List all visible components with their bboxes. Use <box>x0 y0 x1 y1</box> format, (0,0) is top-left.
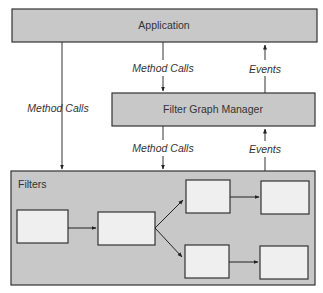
filter-box-4 <box>261 181 309 214</box>
filter-box-2 <box>98 212 155 245</box>
filter-graph-diagram: Application Method Calls Method Calls Ev… <box>0 0 323 293</box>
filter-graph-manager-node: Filter Graph Manager <box>112 93 315 126</box>
filter-box-1 <box>17 210 68 243</box>
edge-label-filters-to-fgm: Events <box>249 143 282 155</box>
edge-label-fgm-to-filters: Method Calls <box>132 142 194 154</box>
filter-box-5 <box>185 245 229 278</box>
application-label: Application <box>138 19 190 31</box>
application-node: Application <box>12 9 317 42</box>
filter-box-3 <box>186 180 230 213</box>
filter-graph-manager-label: Filter Graph Manager <box>163 103 263 115</box>
filters-label: Filters <box>18 178 47 190</box>
filter-box-6 <box>260 246 308 279</box>
edge-label-app-to-fgm: Method Calls <box>132 62 194 74</box>
edge-label-app-to-filters: Method Calls <box>27 102 89 114</box>
edge-label-fgm-to-app: Events <box>249 63 282 75</box>
